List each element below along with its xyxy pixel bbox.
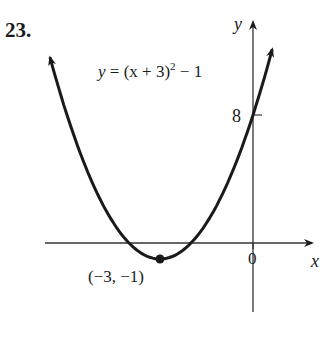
y-tick-label: 8 (232, 106, 241, 126)
origin-label: 0 (248, 249, 257, 268)
y-axis-label: y (232, 14, 242, 34)
parabola-graph: y x 0 8 (−3, −1) y = (x + 3)2 − 1 (0, 0, 330, 337)
equation-rhs: = (x + 3) (110, 62, 170, 81)
vertex-label: (−3, −1) (88, 267, 144, 286)
x-axis-label: x (310, 251, 319, 271)
equation-label: y = (x + 3)2 − 1 (96, 60, 202, 81)
vertex-point (156, 255, 165, 264)
